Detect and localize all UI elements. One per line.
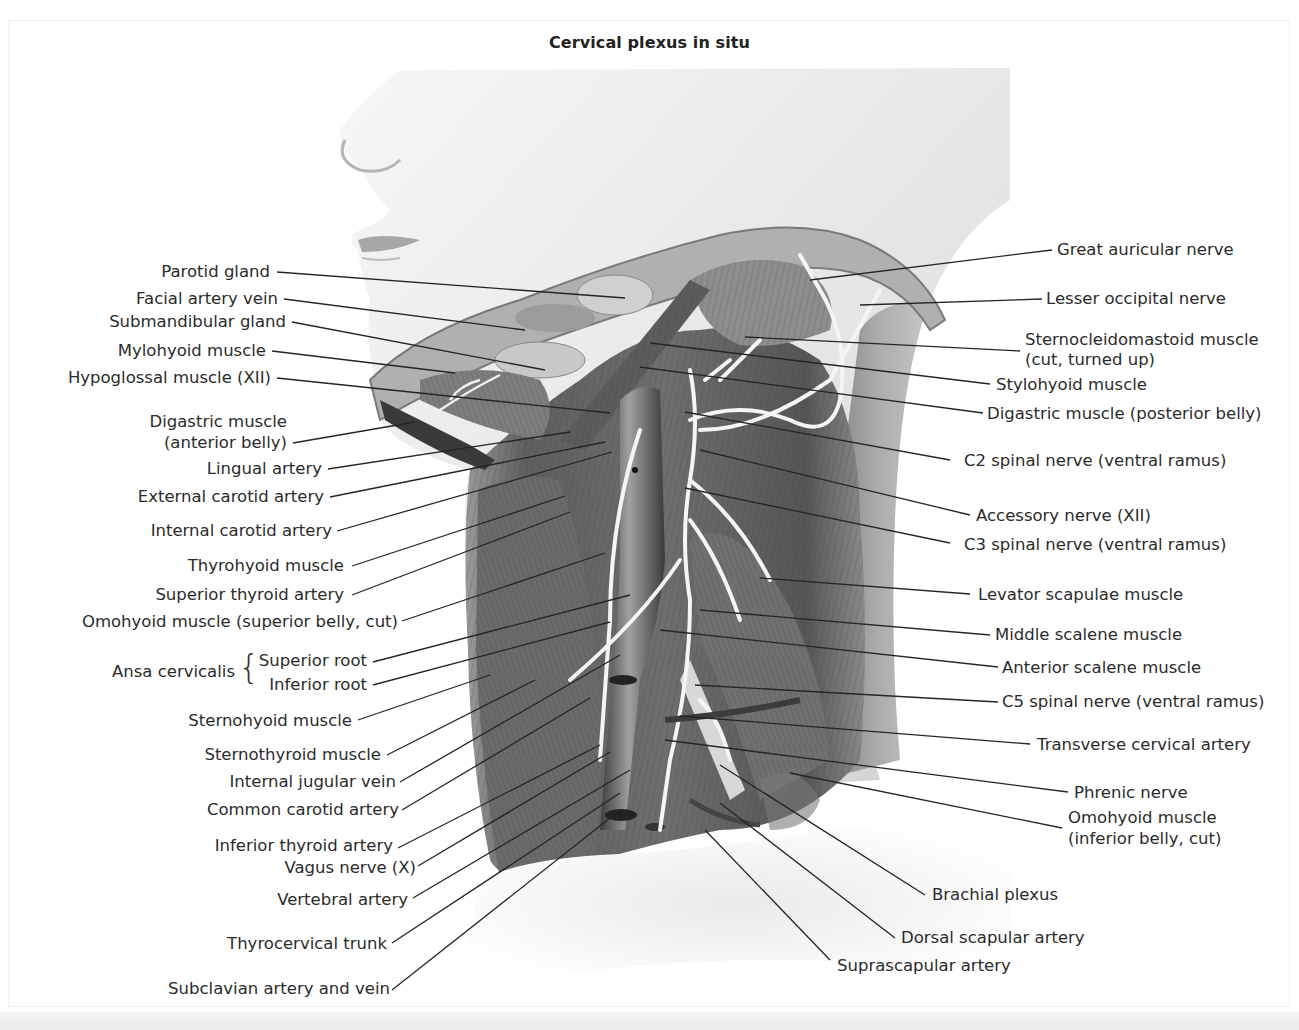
label-inferior-thyroid-artery: Inferior thyroid artery xyxy=(215,836,393,856)
label-sternocleidomastoid-line2: (cut, turned up) xyxy=(1025,350,1155,370)
label-superior-root: Superior root xyxy=(259,651,367,671)
label-parotid-gland: Parotid gland xyxy=(161,262,270,282)
label-middle-scalene: Middle scalene muscle xyxy=(995,625,1182,645)
label-hypoglossal-muscle: Hypoglossal muscle (XII) xyxy=(68,368,271,388)
label-c5-spinal-nerve: C5 spinal nerve (ventral ramus) xyxy=(1002,692,1264,712)
label-sternocleidomastoid-line1: Sternocleidomastoid muscle xyxy=(1025,330,1259,350)
label-lingual-artery: Lingual artery xyxy=(207,459,322,479)
label-omohyoid-superior: Omohyoid muscle (superior belly, cut) xyxy=(82,612,398,632)
label-common-carotid-artery: Common carotid artery xyxy=(207,800,399,820)
label-mylohyoid-muscle: Mylohyoid muscle xyxy=(118,341,266,361)
label-digastric-anterior-line2: (anterior belly) xyxy=(164,433,287,453)
label-phrenic-nerve: Phrenic nerve xyxy=(1074,783,1188,803)
label-thyrohyoid-muscle: Thyrohyoid muscle xyxy=(188,556,344,576)
label-thyrocervical-trunk: Thyrocervical trunk xyxy=(227,934,387,954)
label-subclavian-artery-vein: Subclavian artery and vein xyxy=(168,979,390,999)
label-great-auricular-nerve: Great auricular nerve xyxy=(1057,240,1234,260)
label-transverse-cervical-artery: Transverse cervical artery xyxy=(1037,735,1251,755)
label-vagus-nerve: Vagus nerve (X) xyxy=(284,858,416,878)
label-vertebral-artery: Vertebral artery xyxy=(277,890,408,910)
label-digastric-posterior: Digastric muscle (posterior belly) xyxy=(987,404,1262,424)
label-superior-thyroid-artery: Superior thyroid artery xyxy=(155,585,344,605)
label-brachial-plexus: Brachial plexus xyxy=(932,885,1058,905)
label-accessory-nerve: Accessory nerve (XII) xyxy=(976,506,1151,526)
label-levator-scapulae: Levator scapulae muscle xyxy=(978,585,1183,605)
label-digastric-anterior-line1: Digastric muscle xyxy=(149,412,287,432)
label-facial-artery-vein: Facial artery vein xyxy=(136,289,278,309)
label-external-carotid-artery: External carotid artery xyxy=(138,487,324,507)
label-omohyoid-inferior-line1: Omohyoid muscle xyxy=(1068,808,1217,828)
label-internal-jugular-vein: Internal jugular vein xyxy=(230,772,397,792)
label-ansa-cervicalis: Ansa cervicalis xyxy=(112,662,235,682)
label-c2-spinal-nerve: C2 spinal nerve (ventral ramus) xyxy=(964,451,1226,471)
label-dorsal-scapular-artery: Dorsal scapular artery xyxy=(901,928,1085,948)
ansa-brace: { xyxy=(238,650,260,684)
label-inferior-root: Inferior root xyxy=(269,675,367,695)
label-sternothyroid-muscle: Sternothyroid muscle xyxy=(204,745,381,765)
label-omohyoid-inferior-line2: (inferior belly, cut) xyxy=(1068,829,1221,849)
facial-vessel-shape xyxy=(515,304,595,332)
label-submandibular-gland: Submandibular gland xyxy=(109,312,286,332)
label-stylohyoid-muscle: Stylohyoid muscle xyxy=(996,375,1147,395)
label-anterior-scalene: Anterior scalene muscle xyxy=(1002,658,1201,678)
label-sternohyoid-muscle: Sternohyoid muscle xyxy=(188,711,352,731)
label-suprascapular-artery: Suprascapular artery xyxy=(837,956,1011,976)
label-internal-carotid-artery: Internal carotid artery xyxy=(151,521,332,541)
label-lesser-occipital-nerve: Lesser occipital nerve xyxy=(1046,289,1226,309)
footer-strip xyxy=(0,1012,1299,1030)
label-c3-spinal-nerve: C3 spinal nerve (ventral ramus) xyxy=(964,535,1226,555)
